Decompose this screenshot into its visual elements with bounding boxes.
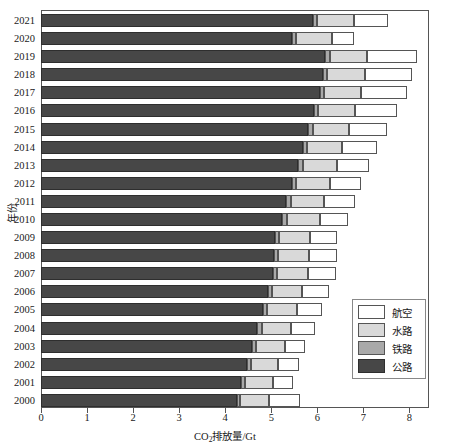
- bar-segment-road: [41, 68, 323, 81]
- y-axis-label-2007: 2007: [14, 268, 35, 280]
- bar-segment-air: [365, 68, 412, 81]
- y-axis-label-2006: 2006: [14, 286, 35, 298]
- bar-segment-rail: [292, 177, 297, 190]
- x-axis-label-8: 8: [394, 412, 424, 423]
- bar-segment-water: [240, 394, 269, 407]
- bar-segment-air: [308, 267, 336, 280]
- x-axis-label-7: 7: [348, 412, 378, 423]
- bar-segment-air: [320, 213, 349, 226]
- x-axis-title: CO2排放量/Gt: [0, 428, 450, 444]
- bar-segment-air: [330, 177, 361, 190]
- y-axis-label-2001: 2001: [14, 377, 35, 389]
- bar-segment-road: [41, 394, 237, 407]
- bar-segment-road: [41, 285, 268, 298]
- bar-segment-air: [367, 50, 416, 63]
- bar-segment-rail: [292, 32, 296, 45]
- legend-swatch-air: [358, 305, 385, 319]
- x-axis-label-2: 2: [118, 412, 148, 423]
- bar-segment-rail: [286, 195, 291, 208]
- y-axis-label-2015: 2015: [14, 124, 35, 136]
- bar-segment-road: [41, 376, 241, 389]
- y-axis-label-2014: 2014: [14, 142, 35, 154]
- bar-segment-road: [41, 104, 314, 117]
- bar-segment-air: [355, 104, 397, 117]
- bar-segment-road: [41, 159, 298, 172]
- bar-segment-water: [313, 123, 349, 136]
- bar-segment-road: [41, 195, 286, 208]
- bar-segment-water: [317, 14, 354, 27]
- y-axis-label-2005: 2005: [14, 304, 35, 316]
- bar-segment-water: [296, 32, 331, 45]
- bar-segment-rail: [313, 14, 318, 27]
- x-axis-title-prefix: CO: [194, 431, 209, 442]
- bar-segment-road: [41, 213, 282, 226]
- bar-segment-water: [277, 267, 308, 280]
- legend-item-water[interactable]: 水路: [353, 321, 425, 339]
- legend-label-water: 水路: [392, 323, 412, 338]
- y-axis-label-2018: 2018: [14, 69, 35, 81]
- bar-segment-water: [307, 141, 342, 154]
- legend-swatch-rail: [358, 341, 385, 355]
- y-axis-label-2003: 2003: [14, 341, 35, 353]
- bar-segment-road: [41, 32, 292, 45]
- legend-swatch-road: [358, 359, 385, 373]
- legend-label-rail: 铁路: [392, 341, 412, 356]
- y-axis-label-2008: 2008: [14, 250, 35, 262]
- bar-segment-road: [41, 50, 325, 63]
- bar-segment-water: [278, 249, 309, 262]
- bar-segment-water: [267, 303, 297, 316]
- bar-segment-air: [332, 32, 355, 45]
- bar-segment-water: [256, 340, 285, 353]
- bar-segment-air: [273, 376, 293, 389]
- legend-swatch-water: [358, 323, 385, 337]
- legend-item-rail[interactable]: 铁路: [353, 339, 425, 357]
- bar-segment-rail: [303, 141, 308, 154]
- x-axis-label-6: 6: [302, 412, 332, 423]
- bar-segment-road: [41, 141, 303, 154]
- bar-segment-air: [278, 358, 299, 371]
- y-axis-tick-labels: 2021202020192018201720162015201420132012…: [0, 10, 38, 408]
- bar-segment-water: [303, 159, 338, 172]
- bar-segment-road: [41, 14, 313, 27]
- legend-label-road: 公路: [392, 359, 412, 374]
- bar-segment-rail: [247, 358, 251, 371]
- x-axis-label-3: 3: [164, 412, 194, 423]
- bar-segment-rail: [273, 267, 277, 280]
- bar-segment-air: [354, 14, 388, 27]
- bar-segment-rail: [274, 249, 278, 262]
- bar-segment-rail: [268, 285, 272, 298]
- bar-segment-road: [41, 86, 320, 99]
- bar-segment-water: [245, 376, 273, 389]
- bar-segment-rail: [241, 376, 245, 389]
- bar-segment-water: [324, 86, 361, 99]
- bar-segment-air: [291, 322, 315, 335]
- bar-segment-rail: [257, 322, 261, 335]
- bar-segment-air: [269, 394, 300, 407]
- y-axis-label-2009: 2009: [14, 232, 35, 244]
- bar-segment-road: [41, 322, 257, 335]
- bar-segment-rail: [252, 340, 256, 353]
- legend-item-air[interactable]: 航空: [353, 303, 425, 321]
- x-axis-label-4: 4: [210, 412, 240, 423]
- y-axis-label-2019: 2019: [14, 51, 35, 63]
- bar-segment-road: [41, 267, 273, 280]
- y-axis-label-2012: 2012: [14, 178, 35, 190]
- bar-segment-rail: [323, 68, 328, 81]
- bar-segment-rail: [298, 159, 303, 172]
- bar-segment-road: [41, 340, 252, 353]
- co2-emissions-stacked-bar-chart: 年份 2021202020192018201720162015201420132…: [0, 0, 450, 447]
- bar-segment-water: [291, 195, 324, 208]
- x-axis-label-5: 5: [256, 412, 286, 423]
- bar-segment-air: [349, 123, 388, 136]
- y-axis-label-2011: 2011: [14, 196, 35, 208]
- bar-segment-water: [330, 50, 368, 63]
- bar-segment-rail: [314, 104, 319, 117]
- bar-segment-rail: [237, 394, 241, 407]
- bar-segment-water: [327, 68, 365, 81]
- y-axis-label-2020: 2020: [14, 33, 35, 45]
- bar-segment-air: [302, 285, 329, 298]
- y-axis-label-2004: 2004: [14, 323, 35, 335]
- legend-item-road[interactable]: 公路: [353, 357, 425, 375]
- y-axis-label-2000: 2000: [14, 395, 35, 407]
- bar-segment-air: [342, 141, 377, 154]
